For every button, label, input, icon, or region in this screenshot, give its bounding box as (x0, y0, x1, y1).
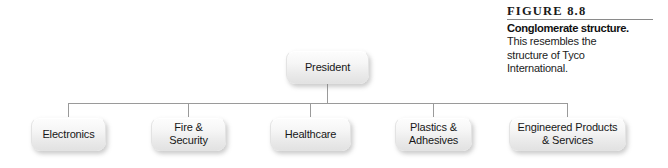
node-president-label: President (301, 61, 354, 74)
node-plastics-adhesives[interactable]: Plastics & Adhesives (395, 117, 472, 151)
connector-drop-engineered-products (567, 103, 568, 118)
figure-description: This resembles the structure of Tyco Int… (507, 35, 653, 76)
connector-drop-fire-security (188, 103, 189, 118)
connector-drop-plastics-adhesives (433, 103, 434, 118)
node-president[interactable]: President (286, 50, 369, 84)
caption-divider (507, 19, 653, 20)
node-fire-security[interactable]: Fire & Security (151, 117, 226, 151)
node-healthcare[interactable]: Healthcare (270, 117, 351, 151)
connector-president-stem (327, 83, 328, 104)
node-plastics-adhesives-label: Plastics & Adhesives (405, 121, 462, 147)
node-electronics-label: Electronics (38, 128, 98, 141)
connector-drop-healthcare (310, 103, 311, 118)
connector-horizontal-bus (68, 103, 568, 104)
node-engineered-products-label: Engineered Products & Services (514, 121, 622, 147)
node-engineered-products[interactable]: Engineered Products & Services (509, 117, 626, 151)
node-electronics[interactable]: Electronics (31, 117, 106, 151)
figure-caption: FIGURE 8.8 Conglomerate structure. This … (507, 4, 653, 76)
figure-org-chart: FIGURE 8.8 Conglomerate structure. This … (0, 0, 668, 168)
connector-drop-electronics (68, 103, 69, 118)
figure-description-line-1: This resembles the (507, 35, 653, 49)
node-fire-security-label: Fire & Security (165, 121, 212, 147)
node-healthcare-label: Healthcare (281, 128, 341, 141)
figure-description-line-2: structure of Tyco (507, 49, 653, 63)
figure-number-label: FIGURE 8.8 (507, 4, 653, 18)
figure-description-line-3: International. (507, 62, 653, 76)
figure-title: Conglomerate structure. (507, 22, 653, 35)
